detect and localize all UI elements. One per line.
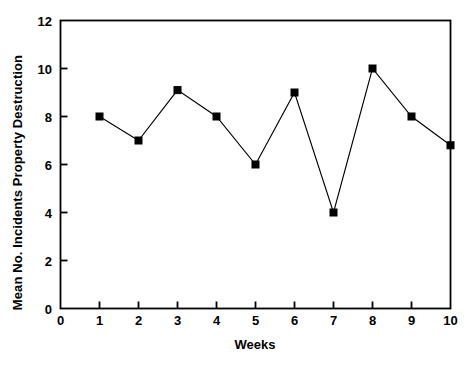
plot-area [0, 0, 469, 365]
data-line [100, 69, 451, 213]
data-markers [96, 65, 454, 216]
chart-container: Mean No. Incidents Property Destruction … [0, 0, 469, 365]
axis-ticks [61, 69, 412, 309]
